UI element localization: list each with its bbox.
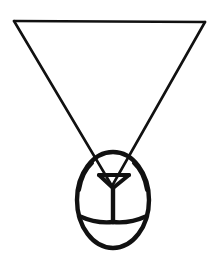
triangle-top-bar: [14, 21, 205, 22]
pendant-line-drawing: [0, 0, 213, 264]
figure-canvas: [0, 0, 213, 264]
